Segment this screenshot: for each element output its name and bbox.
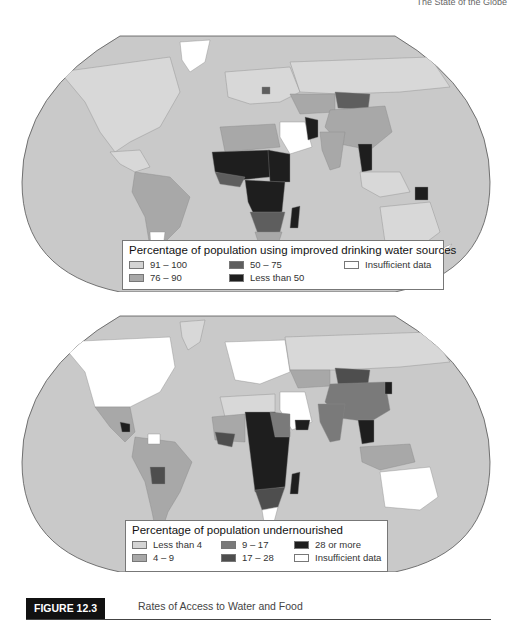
legend-title: Percentage of population using improved … — [129, 244, 437, 256]
legend-swatch — [221, 541, 236, 549]
legend-swatch — [129, 261, 144, 269]
legend-undernourishment: Percentage of population undernourished … — [125, 520, 388, 572]
legend-swatch — [229, 274, 244, 282]
legend-item: 9 – 17 — [221, 538, 294, 551]
legend-item: Less than 4 — [132, 538, 221, 551]
legend-item: Insufficient data — [294, 551, 389, 564]
legend-item: 17 – 28 — [221, 551, 294, 564]
legend-item: 91 – 100 — [129, 258, 229, 271]
legend-item: 76 – 90 — [129, 271, 229, 284]
figure-label: FIGURE 12.3 — [26, 598, 105, 619]
figure-caption: FIGURE 12.3 Rates of Access to Water and… — [26, 598, 491, 620]
running-head: The State of the Globe — [416, 0, 507, 7]
legend-title: Percentage of population undernourished — [132, 524, 381, 536]
legend-item: 50 – 75 — [229, 258, 344, 271]
legend-item: Less than 50 — [229, 271, 344, 284]
legend-item: Insufficient data — [344, 258, 444, 271]
legend-swatch — [294, 554, 309, 562]
legend-water: Percentage of population using improved … — [122, 240, 444, 290]
legend-swatch — [344, 261, 359, 269]
legend-item: 28 or more — [294, 538, 389, 551]
legend-swatch — [221, 554, 236, 562]
legend-swatch — [294, 541, 309, 549]
legend-item: 4 – 9 — [132, 551, 221, 564]
legend-swatch — [132, 541, 147, 549]
legend-swatch — [129, 274, 144, 282]
figure-title: Rates of Access to Water and Food — [138, 600, 303, 612]
legend-swatch — [132, 554, 147, 562]
legend-swatch — [229, 261, 244, 269]
